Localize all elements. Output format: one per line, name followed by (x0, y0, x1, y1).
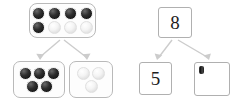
right-arrowhead-part-one (155, 53, 163, 60)
right-arrow-to-part-two (178, 40, 207, 57)
number-bond-diagram: 8 5 (0, 0, 245, 102)
counter-dark (19, 67, 32, 80)
right-arrow-to-part-one (159, 40, 172, 57)
counter-light (64, 21, 77, 34)
whole-number-value: 8 (170, 13, 180, 32)
part-two-counters (70, 62, 112, 97)
counter-light (48, 21, 61, 34)
part-one-number-value: 5 (151, 69, 161, 88)
counter-dark (40, 80, 53, 93)
left-arrow-to-part-one (40, 40, 60, 57)
counter-dark (48, 7, 61, 20)
part-one-counters (14, 62, 64, 97)
counter-dark (64, 7, 77, 20)
counter-row (32, 7, 94, 21)
counter-row (85, 80, 98, 93)
whole-number-box: 8 (158, 7, 192, 38)
counter-row (32, 21, 94, 35)
part-one-number-box: 5 (139, 62, 172, 95)
counter-light (92, 67, 105, 80)
left-arrow-to-part-two (64, 40, 86, 57)
whole-counter-frame (29, 3, 96, 38)
right-arrowhead-part-two (203, 53, 211, 60)
counter-dark (32, 21, 45, 34)
counter-light (80, 21, 93, 34)
part-two-counter-frame (69, 61, 113, 98)
left-arrowhead-part-two (83, 54, 91, 60)
counter-row (77, 67, 105, 80)
part-one-counter-frame (13, 61, 65, 98)
text-cursor-icon (199, 66, 204, 74)
counter-row (26, 80, 53, 93)
counter-dark (47, 67, 60, 80)
counter-row (19, 67, 60, 80)
part-two-answer-box[interactable] (194, 62, 230, 96)
counter-dark (26, 80, 39, 93)
whole-counters (30, 4, 95, 37)
counter-dark (32, 7, 45, 20)
counter-light (85, 80, 98, 93)
counter-dark (80, 7, 93, 20)
counter-dark (33, 67, 46, 80)
counter-light (77, 67, 90, 80)
left-arrowhead-part-one (36, 54, 44, 60)
